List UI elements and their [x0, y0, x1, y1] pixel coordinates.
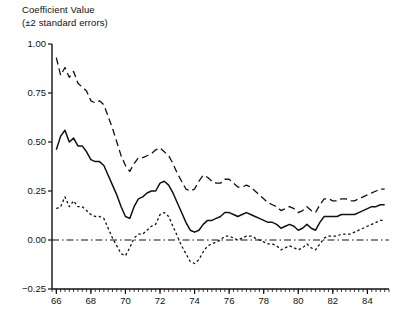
series-lines	[56, 58, 384, 264]
series-line	[56, 197, 384, 264]
axes	[52, 44, 389, 289]
series-line	[56, 130, 384, 232]
series-line	[56, 58, 384, 213]
plot-canvas	[0, 0, 397, 313]
coefficient-value-chart: Coefficient Value (±2 standard errors) 1…	[0, 0, 397, 313]
